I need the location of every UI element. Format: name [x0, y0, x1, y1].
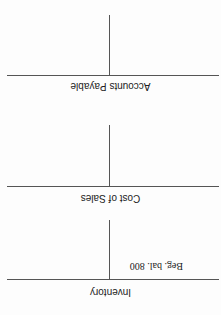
- t-horizontal-line: [7, 279, 219, 280]
- t-vertical-line: [109, 15, 110, 76]
- t-account-cost-of-sales: Cost of Sales: [0, 115, 221, 215]
- t-accounts-page: Inventory Beg. bal. 800 Cost of Sales Ac…: [0, 0, 221, 315]
- t-vertical-line: [109, 220, 110, 280]
- t-vertical-line: [109, 125, 110, 187]
- account-title: Cost of Sales: [0, 193, 221, 204]
- account-title: Inventory: [0, 287, 221, 298]
- t-horizontal-line: [7, 186, 219, 187]
- t-account-inventory: Inventory Beg. bal. 800: [0, 215, 221, 315]
- debit-entry: Beg. bal. 800: [130, 261, 183, 272]
- t-account-accounts-payable: Accounts Payable: [0, 0, 221, 115]
- account-title: Accounts Payable: [0, 81, 221, 92]
- t-horizontal-line: [7, 75, 219, 76]
